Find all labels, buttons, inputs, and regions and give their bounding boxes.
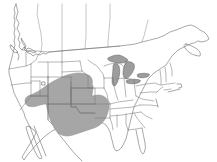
border-bc-ab — [37, 4, 42, 52]
border-sc-nc — [141, 112, 152, 119]
cape-cod — [177, 84, 182, 88]
border-ny-vt — [160, 70, 161, 85]
border-nh-me — [170, 63, 172, 76]
mexico-coast — [58, 133, 82, 161]
border-vt-nh — [165, 67, 166, 82]
long-island — [168, 89, 180, 92]
border-nj-ny-pa — [157, 87, 163, 92]
border-sk-mb — [85, 4, 86, 49]
border-mb-on — [108, 4, 110, 47]
border-ct-ny — [164, 89, 171, 90]
map-canvas — [0, 0, 217, 162]
border-on-qc — [142, 20, 148, 42]
border-nc-va — [140, 105, 158, 106]
range-map-figure — [0, 0, 217, 162]
border-ga-fl — [128, 128, 142, 130]
lake-erie — [126, 79, 140, 84]
border-md-pa — [140, 92, 157, 93]
florida-peninsula — [136, 128, 145, 154]
border-ma-ct-ri — [161, 83, 175, 85]
border-ga-sc — [134, 113, 145, 128]
